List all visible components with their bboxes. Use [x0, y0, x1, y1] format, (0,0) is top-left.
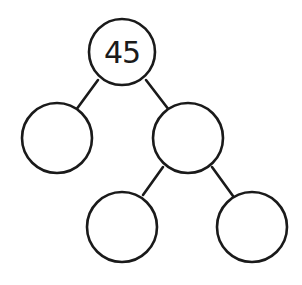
node-left [22, 103, 92, 173]
number-bond-diagram: 45 [0, 0, 302, 285]
edge-root-left [76, 80, 98, 110]
node-right [153, 103, 223, 173]
node-root: 45 [89, 19, 155, 85]
edge-root-right [146, 80, 169, 110]
node-right-left [87, 192, 157, 262]
edge-right-rightleft [143, 167, 163, 195]
node-root-value: 45 [104, 35, 140, 70]
edge-right-rightright [212, 167, 233, 196]
node-right-right [217, 192, 287, 262]
